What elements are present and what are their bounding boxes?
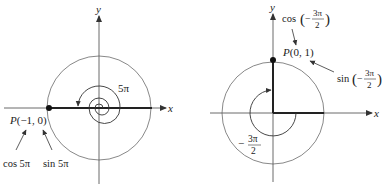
svg-text:−: −: [238, 137, 244, 149]
unit-circle-diagrams: x y 5π P(−1, 0) cos 5π sin 5π x y: [0, 0, 383, 189]
right-cos-pointer-arrow: [292, 29, 296, 45]
right-point-label: P(0, 1): [282, 46, 314, 59]
svg-text:cos: cos: [282, 13, 296, 24]
svg-text:2: 2: [367, 80, 372, 90]
svg-text:3π: 3π: [365, 68, 375, 78]
right-sin-pointer-arrow: [310, 61, 334, 72]
svg-text:−: −: [357, 73, 363, 84]
right-point-p: [270, 57, 276, 63]
left-point-label: P(−1, 0): [9, 114, 47, 127]
svg-text:−: −: [305, 13, 311, 24]
svg-text:3π: 3π: [248, 134, 258, 144]
left-sin-label: sin 5π: [43, 158, 69, 169]
svg-text:): ): [377, 71, 382, 88]
left-cos-label: cos 5π: [3, 158, 31, 169]
svg-text:sin: sin: [337, 73, 350, 84]
left-y-label: y: [95, 3, 101, 15]
right-y-label: y: [269, 1, 275, 13]
svg-text:2: 2: [251, 146, 256, 156]
right-cos-label: cos ( − 3π 2 ): [282, 8, 330, 30]
left-x-label: x: [167, 102, 173, 114]
svg-text:3π: 3π: [313, 8, 323, 18]
right-sin-label: sin ( − 3π 2 ): [337, 68, 382, 90]
right-figure: x y − 3π 2 P(0, 1) cos ( − 3π 2 ): [210, 1, 382, 182]
left-figure: x y 5π P(−1, 0) cos 5π sin 5π: [3, 3, 173, 184]
right-x-label: x: [373, 107, 379, 119]
left-angle-label: 5π: [118, 82, 130, 94]
left-point-p: [46, 105, 52, 111]
cos-pointer-arrow: [16, 130, 26, 150]
svg-text:): ): [325, 11, 330, 28]
sin-pointer-arrow: [43, 130, 52, 150]
svg-text:2: 2: [315, 20, 320, 30]
